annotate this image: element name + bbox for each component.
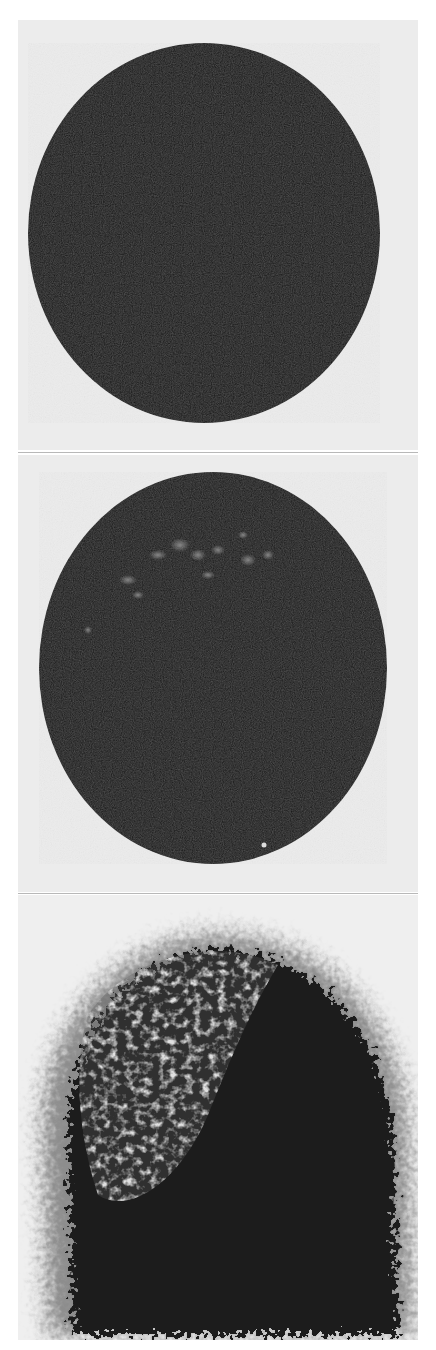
panel-top (18, 20, 418, 450)
panel-bottom (18, 895, 418, 1340)
figure (0, 0, 436, 1350)
panel-divider (18, 893, 418, 894)
solid-disc-image (18, 20, 418, 450)
speckled-disc-image (18, 455, 418, 892)
panel-middle (18, 455, 418, 892)
diffuse-blob-image (18, 895, 418, 1340)
panel-divider (18, 452, 418, 453)
